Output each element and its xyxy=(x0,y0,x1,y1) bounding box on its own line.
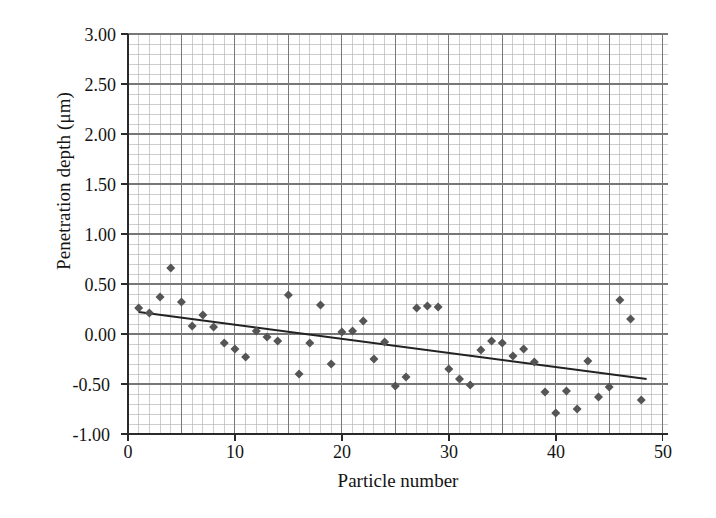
data-point-marker xyxy=(198,311,207,320)
trendline xyxy=(139,312,647,379)
data-point-marker xyxy=(508,352,517,361)
chart-figure: Penetration depth (μm) Particle number 3… xyxy=(0,0,716,518)
data-point-marker xyxy=(305,339,314,348)
data-point-marker xyxy=(519,345,528,354)
data-point-marker xyxy=(423,302,432,311)
data-point-marker xyxy=(284,291,293,300)
data-point-marker xyxy=(615,296,624,305)
data-point-marker xyxy=(166,264,175,273)
data-point-marker xyxy=(551,409,560,418)
data-point-marker xyxy=(145,309,154,318)
data-point-marker xyxy=(177,298,186,307)
data-point-marker xyxy=(412,304,421,313)
data-point-marker xyxy=(295,370,304,379)
plot-canvas xyxy=(0,0,716,518)
data-point-marker xyxy=(626,315,635,324)
data-point-marker xyxy=(498,339,507,348)
data-point-marker xyxy=(337,328,346,337)
data-point-marker xyxy=(188,322,197,331)
data-point-marker xyxy=(573,405,582,414)
trendline-path xyxy=(139,312,647,379)
data-point-marker xyxy=(541,388,550,397)
data-point-marker xyxy=(220,339,229,348)
axis-ticks xyxy=(121,34,663,441)
data-point-marker xyxy=(391,382,400,391)
data-point-marker xyxy=(327,360,336,369)
data-point-marker xyxy=(455,375,464,384)
data-point-marker xyxy=(476,346,485,355)
data-point-marker xyxy=(637,396,646,405)
data-point-marker xyxy=(316,301,325,310)
data-points xyxy=(134,264,646,418)
data-point-marker xyxy=(466,381,475,390)
data-point-marker xyxy=(369,355,378,364)
data-point-marker xyxy=(134,304,143,313)
data-point-marker xyxy=(230,345,239,354)
data-point-marker xyxy=(444,365,453,374)
